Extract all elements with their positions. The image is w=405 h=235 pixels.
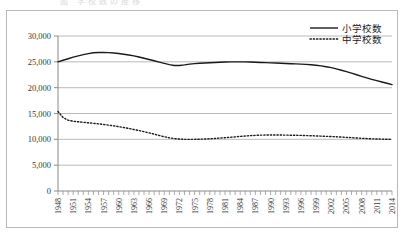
x-tick-label: 1996: [297, 198, 306, 214]
x-tick-label: 1984: [236, 198, 245, 214]
x-tick-label: 1960: [115, 198, 124, 214]
legend-label-juniorhigh: 中学校数: [342, 34, 382, 45]
y-tick-label: 20,000: [28, 83, 51, 93]
series-juniorhigh-schools: [58, 111, 392, 139]
x-tick-label: 1993: [282, 198, 291, 214]
line-chart: 30,000 25,000 20,000 15,000 10,000 5,000…: [0, 0, 405, 235]
y-tick-label: 25,000: [28, 57, 51, 67]
series-elementary-schools: [58, 52, 392, 84]
x-tick-label: 1978: [206, 198, 215, 214]
y-tick-label: 5,000: [32, 160, 51, 170]
gridlines: [58, 36, 392, 165]
x-tick-label: 2002: [327, 198, 336, 214]
x-tick-label: 1972: [175, 198, 184, 214]
y-tick-label: 30,000: [28, 31, 51, 41]
x-tick-label: 1990: [267, 198, 276, 214]
x-tick-label: 1951: [69, 198, 78, 214]
x-tick-label: 1987: [251, 198, 260, 214]
x-tick-label: 1948: [54, 198, 63, 214]
x-tick-label: 2005: [342, 198, 351, 214]
x-axis-ticks: [58, 191, 392, 195]
data-series-layer: [58, 52, 392, 139]
x-tick-label: 1969: [160, 198, 169, 214]
y-tick-label: 10,000: [28, 134, 51, 144]
x-tick-label: 1966: [145, 198, 154, 214]
chart-legend: 小学校数 中学校数: [310, 23, 382, 45]
x-tick-label: 1954: [84, 198, 93, 214]
x-tick-label: 1957: [100, 198, 109, 214]
y-axis-ticks: [54, 36, 58, 191]
y-axis-labels: 30,000 25,000 20,000 15,000 10,000 5,000…: [28, 31, 51, 196]
x-tick-label: 1975: [191, 198, 200, 214]
x-tick-label: 2008: [358, 198, 367, 214]
legend-label-elementary: 小学校数: [342, 23, 382, 34]
x-tick-label: 1981: [221, 198, 230, 214]
figure-container: 図 学校数の推移 30,000 25,000: [0, 0, 405, 235]
y-tick-label: 15,000: [28, 109, 51, 119]
x-tick-label: 1963: [130, 198, 139, 214]
y-tick-label: 0: [47, 186, 51, 196]
x-tick-label: 1999: [312, 198, 321, 214]
x-axis-labels: 1948195119541957196019631966196919721975…: [54, 198, 397, 214]
x-tick-label: 2011: [373, 198, 382, 214]
x-tick-label: 2014: [388, 198, 397, 214]
